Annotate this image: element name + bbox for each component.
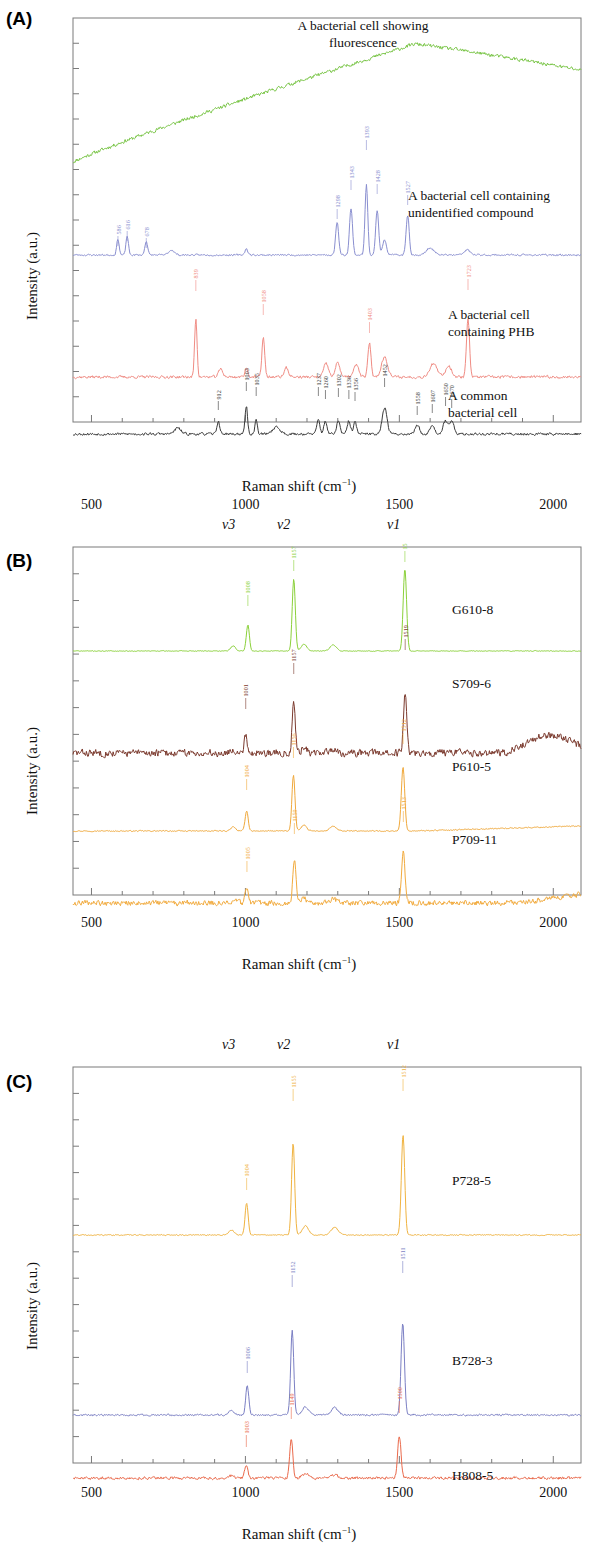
x-tick-label: 1000	[215, 915, 275, 931]
svg-text:1157: 1157	[290, 649, 297, 661]
svg-text:1452: 1452	[381, 364, 388, 376]
svg-text:1723: 1723	[465, 265, 472, 277]
svg-text:1159: 1159	[291, 809, 298, 821]
svg-text:1393: 1393	[363, 126, 370, 138]
series-label-line: A bacterial cell	[448, 307, 535, 324]
svg-text:678: 678	[143, 227, 150, 236]
svg-text:1035: 1035	[253, 373, 260, 385]
svg-text:1149: 1149	[288, 1393, 295, 1405]
panel-c: (C) Intensity (a.u.) v3 v2 v1 1004115515…	[0, 1005, 598, 1565]
x-title-tail: )	[351, 478, 356, 494]
svg-text:1003: 1003	[243, 1421, 250, 1433]
panel-c-svg: 100411551512100611521511100311491500	[63, 1063, 585, 1483]
svg-text:1302: 1302	[335, 374, 342, 386]
svg-text:1519: 1519	[402, 625, 409, 637]
panel-c-band-v1: v1	[387, 1037, 400, 1053]
svg-text:1558: 1558	[414, 392, 421, 404]
series-label-line: bacterial cell	[448, 405, 517, 422]
panel-c-letter: (C)	[6, 1071, 32, 1093]
panel-b-series-label-0: G610-8	[452, 602, 493, 619]
panel-a-series-label-3: A common bacterial cell	[448, 388, 517, 422]
panel-b-band-v2: v2	[277, 517, 290, 533]
panel-b-series-label-1: S709-6	[452, 676, 491, 693]
panel-c-band-v2: v2	[277, 1037, 290, 1053]
svg-text:1001: 1001	[242, 684, 249, 696]
panel-a: (A) Intensity (a.u.) 5866166781298134313…	[0, 0, 598, 505]
x-tick-label: 1500	[369, 1485, 429, 1501]
x-tick-label: 1000	[215, 1485, 275, 1501]
panel-b-series-label-2: P610-5	[452, 759, 491, 776]
svg-text:1156: 1156	[290, 733, 297, 745]
panel-b-y-axis-title: Intensity (a.u.)	[24, 727, 41, 815]
x-title-main: Raman shift (cm	[242, 956, 342, 972]
svg-text:586: 586	[115, 225, 122, 234]
svg-text:912: 912	[215, 390, 222, 399]
svg-text:616: 616	[124, 220, 131, 229]
svg-text:1500: 1500	[396, 1387, 403, 1399]
svg-text:1607: 1607	[429, 390, 436, 402]
x-title-sup: −1	[342, 1525, 352, 1535]
svg-text:1152: 1152	[289, 1261, 296, 1273]
panel-a-x-axis-title: Raman shift (cm−1)	[0, 477, 598, 495]
svg-text:1008: 1008	[244, 581, 251, 593]
panel-c-series-label-1: B728-3	[452, 1353, 493, 1370]
svg-text:1004: 1004	[243, 1164, 250, 1176]
svg-text:1155: 1155	[290, 1075, 297, 1087]
panel-b-svg: 1008115715181001115715191004115615121005…	[63, 543, 585, 913]
x-title-main: Raman shift (cm	[242, 1526, 342, 1542]
svg-text:1058: 1058	[260, 290, 267, 302]
svg-text:1428: 1428	[374, 170, 381, 182]
svg-text:839: 839	[192, 269, 199, 278]
series-label-line: fluorescence	[263, 35, 463, 52]
svg-text:1004: 1004	[243, 765, 250, 777]
svg-text:1343: 1343	[348, 166, 355, 178]
x-title-tail: )	[351, 1526, 356, 1542]
panel-c-x-axis-title: Raman shift (cm−1)	[0, 1525, 598, 1543]
x-tick-label: 500	[61, 1485, 121, 1501]
panel-b-letter: (B)	[6, 550, 32, 572]
panel-b-band-v3: v3	[222, 517, 235, 533]
panel-c-series-label-2: H808-5	[452, 1468, 493, 1485]
series-label-line: A bacterial cell containing	[408, 188, 550, 205]
svg-text:1513: 1513	[400, 797, 407, 809]
x-title-sup: −1	[342, 477, 352, 487]
panel-c-series-label-0: P728-5	[452, 1173, 491, 1190]
svg-text:1003: 1003	[243, 368, 250, 380]
x-title-main: Raman shift (cm	[242, 478, 342, 494]
svg-text:1006: 1006	[244, 1347, 251, 1359]
svg-text:1237: 1237	[315, 373, 322, 385]
x-tick-label: 1500	[369, 915, 429, 931]
series-label-line: unidentified compound	[408, 205, 550, 222]
panel-b-band-v1: v1	[387, 517, 400, 533]
series-label-line: containing PHB	[448, 324, 535, 341]
panel-a-y-axis-title: Intensity (a.u.)	[24, 232, 41, 320]
series-label-line: A common	[448, 388, 517, 405]
panel-b-x-axis-title: Raman shift (cm−1)	[0, 955, 598, 973]
x-title-sup: −1	[342, 955, 352, 965]
panel-c-plot: 100411551512100611521511100311491500	[63, 1063, 585, 1483]
svg-text:1518: 1518	[401, 543, 408, 550]
svg-text:1403: 1403	[366, 308, 373, 320]
panel-a-series-label-2: A bacterial cell containing PHB	[448, 307, 535, 341]
panel-b: (B) Intensity (a.u.) v3 v2 v1 1008115715…	[0, 505, 598, 1005]
panel-c-y-axis-title: Intensity (a.u.)	[24, 1262, 41, 1350]
series-label-line: A bacterial cell showing	[263, 18, 463, 35]
panel-a-plot: 5866166781298134313931428152783910581403…	[63, 12, 585, 444]
x-tick-label: 500	[61, 915, 121, 931]
panel-a-letter: (A)	[6, 8, 32, 30]
panel-a-series-label-1: A bacterial cell containing unidentified…	[408, 188, 550, 222]
panel-c-band-v3: v3	[222, 1037, 235, 1053]
panel-a-svg: 5866166781298134313931428152783910581403…	[63, 12, 585, 444]
panel-b-plot: 1008115715181001115715191004115615121005…	[63, 543, 585, 913]
svg-text:1157: 1157	[290, 546, 297, 558]
x-tick-label: 2000	[523, 915, 583, 931]
svg-text:1511: 1511	[399, 1247, 406, 1259]
x-title-tail: )	[351, 956, 356, 972]
svg-text:1005: 1005	[244, 847, 251, 859]
svg-text:1356: 1356	[352, 378, 359, 390]
svg-text:1512: 1512	[400, 1065, 407, 1077]
svg-text:1512: 1512	[400, 719, 407, 731]
panel-a-series-label-0: A bacterial cell showing fluorescence	[263, 18, 463, 52]
svg-text:1260: 1260	[322, 376, 329, 388]
x-tick-label: 2000	[523, 1485, 583, 1501]
